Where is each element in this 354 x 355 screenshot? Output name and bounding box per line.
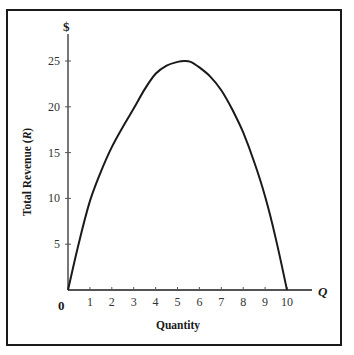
- x-tick-label: 8: [240, 295, 246, 309]
- origin-label: 0: [58, 298, 65, 313]
- x-tick-label: 10: [281, 295, 293, 309]
- x-axis-title: Quantity: [156, 319, 200, 332]
- x-tick-label: 3: [131, 295, 137, 309]
- y-axis-title: Total Revenue (R): [21, 128, 34, 217]
- y-tick-label: 5: [54, 237, 60, 251]
- y-tick-label: 15: [48, 146, 60, 160]
- x-axis-symbol: Q: [318, 284, 328, 299]
- x-tick-label: 9: [262, 295, 268, 309]
- x-tick-label: 7: [218, 295, 224, 309]
- x-tick-label: 6: [196, 295, 202, 309]
- y-tick-label: 25: [48, 54, 60, 68]
- x-tick-label: 5: [175, 295, 181, 309]
- y-axis-symbol: $: [63, 19, 70, 34]
- total-revenue-chart: 510152025 12345678910 $ Q 0 Quantity Tot…: [0, 0, 354, 355]
- x-tick-label: 2: [109, 295, 115, 309]
- y-tick-label: 10: [48, 191, 60, 205]
- x-tick-label: 4: [153, 295, 159, 309]
- y-tick-label: 20: [48, 100, 60, 114]
- total-revenue-curve: [68, 61, 287, 290]
- x-tick-label: 1: [87, 295, 93, 309]
